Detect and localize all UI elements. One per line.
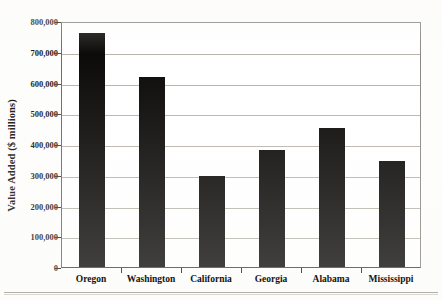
x-axis-tick-label: Georgia <box>255 274 288 284</box>
y-axis-tick-mark <box>55 22 61 23</box>
x-axis-tick-label: California <box>190 274 232 284</box>
bar-alabama <box>319 128 345 267</box>
y-axis-tick-label: 100,000 <box>14 232 58 242</box>
bar-chart-figure: Value Added ($ millions) 0100,000200,000… <box>0 0 442 300</box>
y-axis-tick-label: 600,000 <box>14 79 58 89</box>
y-axis-tick-mark <box>55 145 61 146</box>
x-axis-tick-label: Mississippi <box>369 274 414 284</box>
gridline <box>62 54 420 55</box>
y-axis-tick-label: 800,000 <box>14 17 58 27</box>
bar-washington <box>139 77 165 267</box>
y-axis-tick-label: 0 <box>14 263 58 273</box>
y-axis-tick-label: 500,000 <box>14 109 58 119</box>
y-axis-tick-label: 700,000 <box>14 48 58 58</box>
y-axis-tick-mark <box>55 207 61 208</box>
gridline <box>62 115 420 116</box>
gridline <box>62 238 420 239</box>
gridline <box>62 208 420 209</box>
x-axis-tick-label: Oregon <box>76 274 106 284</box>
x-axis-tick-mark <box>301 268 302 273</box>
plot-area <box>61 22 421 268</box>
y-axis-tick-mark <box>55 114 61 115</box>
y-axis-tick-mark <box>55 176 61 177</box>
y-axis-tick-label-group: 0100,000200,000300,000400,000500,000600,… <box>14 0 58 300</box>
page-divider-rule-secondary <box>4 294 438 295</box>
y-axis-tick-mark <box>55 84 61 85</box>
x-axis-tick-mark <box>181 268 182 273</box>
x-axis-tick-mark <box>361 268 362 273</box>
x-axis-tick-label: Washington <box>127 274 176 284</box>
x-axis-tick-mark <box>241 268 242 273</box>
x-axis-tick-label: Alabama <box>313 274 350 284</box>
x-axis-tick-mark <box>121 268 122 273</box>
gridline <box>62 85 420 86</box>
gridline <box>62 177 420 178</box>
y-axis-tick-mark <box>55 268 61 269</box>
y-axis-tick-label: 200,000 <box>14 202 58 212</box>
bar-georgia <box>259 150 285 267</box>
gridline <box>62 146 420 147</box>
bar-california <box>199 176 225 267</box>
y-axis-tick-mark <box>55 237 61 238</box>
y-axis-tick-label: 400,000 <box>14 140 58 150</box>
y-axis-tick-label: 300,000 <box>14 171 58 181</box>
y-axis-tick-mark <box>55 53 61 54</box>
bar-oregon <box>79 33 105 267</box>
bar-mississippi <box>379 161 405 267</box>
page-divider-rule <box>4 292 438 293</box>
